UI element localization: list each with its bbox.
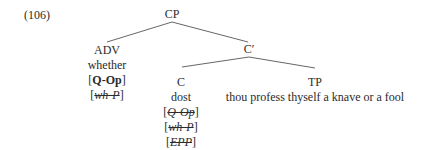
adv-feature-whp: [wh-P] — [88, 88, 127, 103]
branch-cp-cbar — [172, 22, 248, 42]
node-cbar: C′ — [244, 42, 255, 57]
branch-cbar-c — [182, 57, 249, 67]
adv-feature-qop: [Q-Op] — [88, 73, 127, 88]
node-adv: ADV whether [Q-Op] [wh-P] — [88, 43, 127, 103]
tp-text: thou profess thyself a knave or a fool — [226, 90, 404, 105]
node-cp: CP — [165, 7, 180, 22]
branch-cbar-tp — [249, 57, 315, 68]
example-number: (106) — [24, 8, 50, 23]
c-label: C — [163, 75, 198, 90]
adv-label: ADV — [88, 43, 127, 58]
adv-word: whether — [88, 58, 127, 73]
branch-cp-adv — [107, 22, 172, 42]
c-feature-whp: [wh-P] — [163, 120, 198, 135]
node-tp: TP thou profess thyself a knave or a foo… — [226, 75, 404, 105]
c-feature-qop: [Q-Op] — [163, 105, 198, 120]
c-feature-epp: [EPP] — [163, 135, 198, 150]
node-c: C dost [Q-Op] [wh-P] [EPP] — [163, 75, 198, 150]
c-word: dost — [163, 90, 198, 105]
tp-label: TP — [226, 75, 404, 90]
